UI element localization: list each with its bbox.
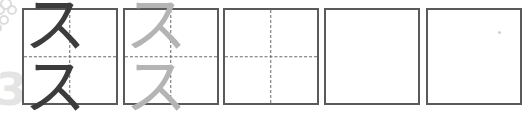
writing-area <box>326 10 418 103</box>
practice-box-5[interactable] <box>426 8 522 105</box>
practice-box-1: スス <box>22 8 118 105</box>
trace-character: スス <box>125 10 217 103</box>
flower-decoration-icon <box>0 0 22 36</box>
practice-box-2: スス <box>123 8 219 105</box>
practice-box-4[interactable] <box>324 8 420 105</box>
speck-mark <box>498 31 501 34</box>
model-character: スス <box>24 10 116 103</box>
practice-box-3[interactable] <box>223 8 319 105</box>
writing-area <box>428 10 520 103</box>
writing-area <box>225 10 317 103</box>
